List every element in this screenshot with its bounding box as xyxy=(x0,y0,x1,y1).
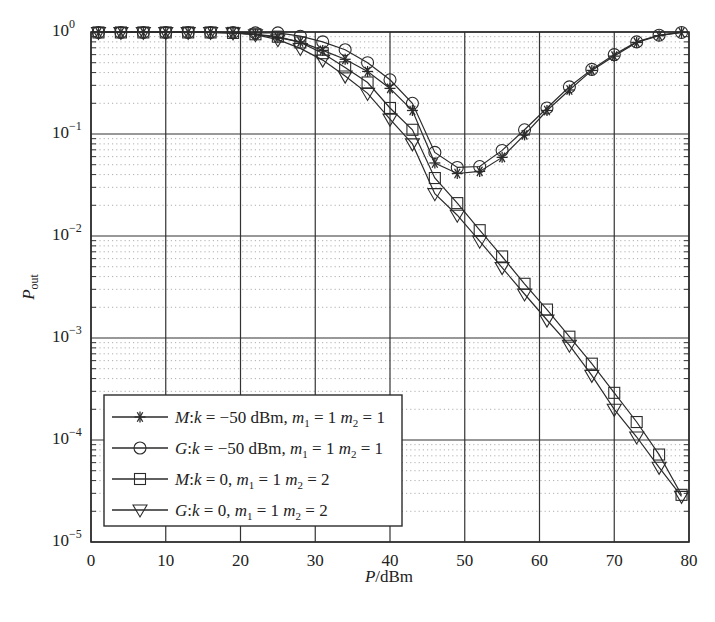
x-axis-title: P/dBm xyxy=(364,567,413,586)
y-tick-label: 10−4 xyxy=(52,425,82,448)
x-tick-label: 80 xyxy=(681,551,698,570)
star-marker xyxy=(429,157,440,168)
y-tick-label: 10−1 xyxy=(52,119,82,142)
y-tick-label: 10−3 xyxy=(52,323,82,346)
series-circle xyxy=(91,26,688,173)
outage-probability-chart: 01020304050607080 10010−110−210−310−410−… xyxy=(0,0,715,622)
y-tick-label: 10−2 xyxy=(52,221,82,244)
x-tick-label: 60 xyxy=(531,551,548,570)
y-tick-label: 10−5 xyxy=(52,527,82,550)
x-tick-label: 70 xyxy=(606,551,623,570)
y-tick-label: 100 xyxy=(52,17,75,40)
x-tick-label: 50 xyxy=(456,551,473,570)
x-tick-label: 10 xyxy=(157,551,174,570)
x-tick-label: 0 xyxy=(87,551,96,570)
y-axis-title: Pout xyxy=(19,273,41,300)
y-axis-tick-labels: 10010−110−210−310−410−5 xyxy=(52,17,82,550)
triangle-marker xyxy=(630,432,644,444)
x-tick-label: 20 xyxy=(232,551,249,570)
x-tick-label: 30 xyxy=(307,551,324,570)
legend: M:k = −50 dBm, m1 = 1 m2 = 1G:k = −50 dB… xyxy=(104,395,402,526)
